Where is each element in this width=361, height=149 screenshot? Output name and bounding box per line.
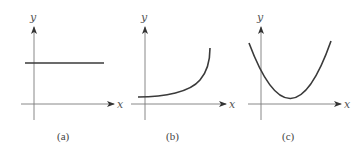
x-axis-label: x bbox=[344, 98, 351, 111]
panel-caption: (c) bbox=[282, 130, 295, 143]
y-axis-label: y bbox=[29, 11, 37, 24]
function-graphs-figure: y x (a) y x (b) y x (c) bbox=[0, 0, 361, 149]
panel-c: y x (c) bbox=[248, 11, 351, 143]
panel-caption: (a) bbox=[57, 130, 70, 143]
panel-caption: (b) bbox=[166, 130, 179, 143]
x-axis-label: x bbox=[229, 98, 236, 111]
panel-a: y x (a) bbox=[21, 11, 124, 143]
y-axis-label: y bbox=[140, 11, 148, 24]
panel-b: y x (b) bbox=[131, 11, 236, 143]
y-axis-label: y bbox=[256, 11, 264, 24]
x-axis-label: x bbox=[117, 98, 124, 111]
exponential-curve bbox=[138, 48, 210, 97]
